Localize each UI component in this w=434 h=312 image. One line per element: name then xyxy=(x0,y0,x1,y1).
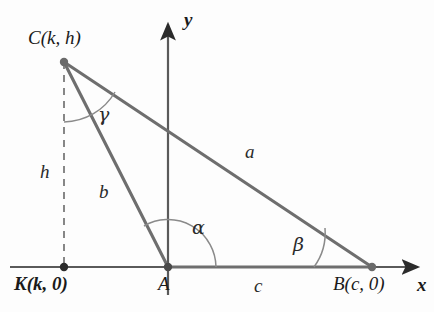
side-label-b: b xyxy=(99,182,109,201)
point-label-C: C(k, h) xyxy=(28,28,81,47)
angle-label-beta: β xyxy=(293,235,304,254)
point-label-K: K(k, 0) xyxy=(14,274,68,293)
vertex-dot-B xyxy=(368,263,376,271)
side-label-a: a xyxy=(245,142,255,161)
angle-label-alpha: α xyxy=(192,218,205,237)
side-label-c: c xyxy=(254,276,262,295)
y-axis-label: y xyxy=(184,10,192,29)
vertex-dot-A xyxy=(164,263,172,271)
point-label-B: B(c, 0) xyxy=(333,274,385,293)
point-label-A: A xyxy=(158,274,170,293)
x-axis-label: x xyxy=(417,275,427,294)
segment-label-h: h xyxy=(40,162,50,181)
vertex-dot-K xyxy=(60,263,68,271)
angle-label-gamma: γ xyxy=(98,105,109,124)
side-b-segment xyxy=(64,62,168,267)
vertex-dot-C xyxy=(60,58,68,66)
geometry-figure: C(k, h) A B(c, 0) K(k, 0) a b c h γ α β … xyxy=(0,0,434,312)
